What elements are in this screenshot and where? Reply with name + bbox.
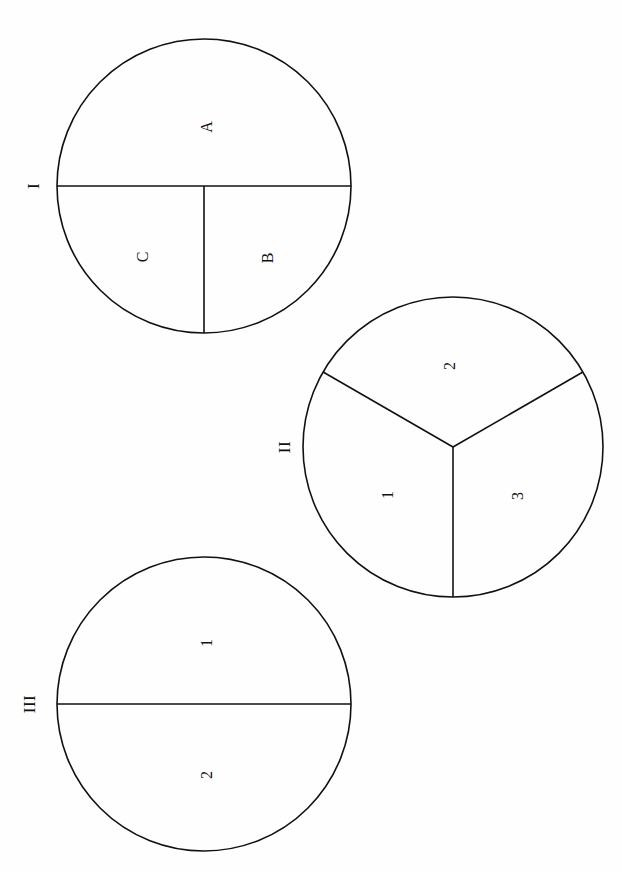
figure-page: I II III A C B 2 1 3 1 2 — [0, 0, 622, 872]
circle-3-group — [57, 557, 351, 851]
circle-2-region-label-1: 1 — [380, 491, 396, 499]
divided-circles-figure — [0, 0, 622, 872]
circle-1-region-label-b: B — [260, 253, 276, 264]
circle-2-radius-upper-right — [453, 372, 583, 447]
figure-numeral-i: I — [25, 183, 42, 189]
circle-3-region-label-1: 1 — [199, 639, 215, 647]
circle-1-region-label-a: A — [199, 121, 215, 133]
circle-2-region-label-3: 3 — [510, 492, 526, 500]
circle-1-group — [57, 39, 351, 333]
circle-2-radius-upper-left — [323, 372, 453, 447]
figure-numeral-ii: II — [276, 441, 293, 453]
circle-1-region-label-c: C — [135, 252, 151, 263]
circle-3-region-label-2: 2 — [199, 771, 215, 779]
circle-2-region-label-2: 2 — [442, 362, 458, 370]
circle-2-group — [303, 297, 603, 597]
figure-numeral-iii: III — [21, 695, 38, 713]
